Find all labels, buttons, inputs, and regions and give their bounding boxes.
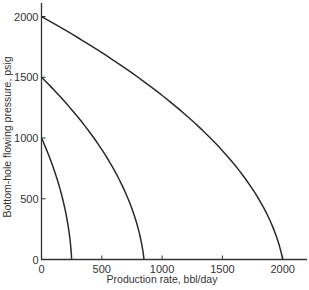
y-tick-label: 1500 bbox=[14, 71, 38, 83]
y-axis-label: Bottom-hole flowing pressure, psig bbox=[1, 56, 13, 217]
ipr-curve-1000 bbox=[42, 138, 72, 260]
x-axis: 0500100015002000 bbox=[38, 256, 307, 275]
x-tick-label: 0 bbox=[38, 263, 44, 275]
ipr-curve-1500 bbox=[42, 77, 145, 259]
x-tick-label: 2000 bbox=[270, 263, 294, 275]
ipr-curve-2000 bbox=[42, 17, 283, 260]
y-tick-label: 500 bbox=[20, 193, 38, 205]
ipr-chart: 0500100015002000 0500100015002000 Produc… bbox=[0, 0, 309, 290]
x-axis-label: Production rate, bbl/day bbox=[107, 273, 219, 285]
y-tick-label: 2000 bbox=[14, 11, 38, 23]
plot-area bbox=[42, 17, 283, 260]
y-axis: 0500100015002000 bbox=[14, 3, 45, 266]
y-tick-label: 1000 bbox=[14, 132, 38, 144]
